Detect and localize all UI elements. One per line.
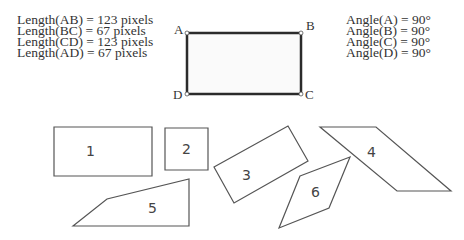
shape-1-label: 1 [86, 143, 95, 159]
diagram-canvas: A B C D 1 2 3 4 5 6 [0, 0, 464, 240]
vertex-a-label: A [174, 22, 184, 37]
vertex-c-handle[interactable] [299, 92, 303, 96]
shape-2-label: 2 [182, 141, 191, 157]
shape-3-label: 3 [242, 167, 251, 183]
shape-4-label: 4 [367, 144, 376, 160]
shape-1[interactable] [54, 127, 152, 176]
vertex-c-label: C [305, 87, 314, 102]
shape-6-label: 6 [311, 184, 320, 200]
vertex-b-handle[interactable] [299, 31, 303, 35]
shape-5-label: 5 [148, 200, 157, 216]
vertex-a-handle[interactable] [185, 31, 189, 35]
vertex-d-label: D [173, 87, 182, 102]
vertex-b-label: B [306, 18, 315, 33]
reference-rectangle: A B C D [173, 18, 315, 102]
shape-5[interactable] [73, 179, 189, 226]
rectangle-abcd [187, 33, 301, 94]
vertex-d-handle[interactable] [185, 92, 189, 96]
